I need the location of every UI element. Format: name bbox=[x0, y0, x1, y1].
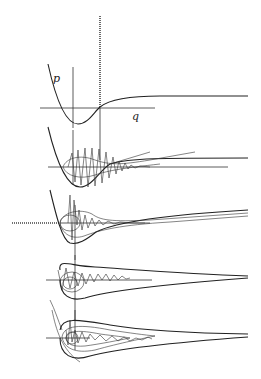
orbit-bottom bbox=[60, 278, 248, 299]
panel-4 bbox=[46, 255, 248, 330]
potential-curve bbox=[50, 190, 248, 243]
trajectory bbox=[68, 195, 145, 240]
orbit-bottom bbox=[60, 216, 248, 237]
tangent-line bbox=[110, 152, 150, 164]
panel-1: p q bbox=[40, 16, 248, 130]
trajectory bbox=[66, 320, 152, 345]
p-label: p bbox=[53, 72, 60, 85]
panel-5 bbox=[46, 310, 248, 362]
separatrix-top bbox=[63, 152, 195, 167]
trajectory bbox=[68, 148, 150, 187]
orbit-top bbox=[60, 211, 248, 223]
panel-2 bbox=[48, 127, 248, 187]
trajectory bbox=[58, 268, 130, 290]
potential-curve bbox=[48, 64, 248, 124]
phase-space-figure: p q bbox=[0, 0, 261, 379]
orbit-bottom bbox=[60, 337, 248, 358]
q-label: q bbox=[132, 110, 139, 123]
orbit-top bbox=[60, 263, 248, 276]
panel-3 bbox=[12, 190, 248, 260]
